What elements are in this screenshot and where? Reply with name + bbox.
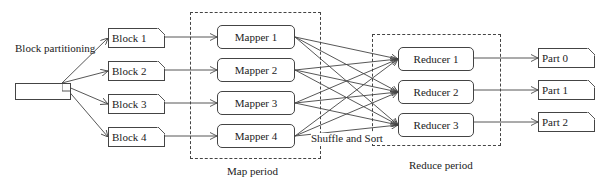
edge-source-block2 bbox=[62, 71, 108, 83]
mapper-node-4: Mapper 4 bbox=[217, 124, 295, 148]
document-fold-icon bbox=[158, 94, 165, 101]
part-node-0: Part 0 bbox=[538, 48, 595, 68]
document-fold-icon bbox=[158, 61, 165, 68]
document-fold-icon bbox=[588, 112, 595, 119]
reducer-node-2: Reducer 2 bbox=[398, 80, 474, 104]
reducer-node-1: Reducer 1 bbox=[398, 47, 474, 71]
block-node-4: Block 4 bbox=[108, 127, 165, 147]
document-fold-icon bbox=[588, 80, 595, 87]
mapper-node-2: Mapper 2 bbox=[217, 58, 295, 82]
reducer-node-3: Reducer 3 bbox=[398, 113, 474, 137]
block-node-3: Block 3 bbox=[108, 94, 165, 114]
block-node-2: Block 2 bbox=[108, 61, 165, 81]
document-fold-icon bbox=[158, 28, 165, 35]
block-partitioning-label: Block partitioning bbox=[15, 43, 95, 54]
source-fold-icon bbox=[62, 83, 71, 92]
block-node-1: Block 1 bbox=[108, 28, 165, 48]
reduce-period-label: Reduce period bbox=[409, 160, 473, 171]
part-node-1: Part 1 bbox=[538, 80, 595, 100]
shuffle-sort-label: Shuffle and Sort bbox=[311, 133, 383, 144]
mapper-node-1: Mapper 1 bbox=[217, 25, 295, 49]
map-period-label: Map period bbox=[227, 166, 278, 177]
document-fold-icon bbox=[588, 48, 595, 55]
mapper-node-3: Mapper 3 bbox=[217, 91, 295, 115]
part-node-2: Part 2 bbox=[538, 112, 595, 132]
document-fold-icon bbox=[158, 127, 165, 134]
